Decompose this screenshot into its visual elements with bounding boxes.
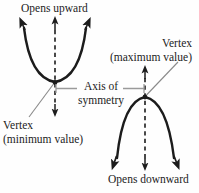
downward-parabola-right-arm [145, 97, 174, 158]
label-vertex-minimum-line1: Vertex [3, 119, 99, 133]
vertex-minimum-leader-line [29, 84, 54, 117]
downward-parabola-right-arrow [174, 156, 178, 165]
label-vertex-maximum-value: Vertex (maximum value) [100, 37, 192, 64]
label-axis-of-symmetry-line1: Axis of [78, 80, 124, 94]
label-axis-of-symmetry-line2: symmetry [78, 94, 124, 108]
downward-parabola-left-arrow [114, 156, 117, 165]
upward-parabola-right-arm [55, 28, 86, 82]
label-vertex-minimum-value: Vertex (minimum value) [3, 119, 99, 146]
parabola-diagram: Opens upward Axis of symmetry Vertex (mi… [0, 0, 199, 193]
upward-parabola-left-arm [24, 28, 55, 82]
label-vertex-minimum-line2: (minimum value) [3, 133, 99, 147]
vertex-maximum-leader-line [147, 62, 179, 95]
label-vertex-maximum-line2: (maximum value) [100, 51, 192, 65]
label-opens-upward: Opens upward [21, 2, 88, 15]
label-opens-downward: Opens downward [108, 173, 189, 186]
label-axis-of-symmetry: Axis of symmetry [78, 80, 124, 107]
vertex-maximum-point [143, 95, 148, 100]
label-vertex-maximum-line1: Vertex [100, 37, 192, 51]
